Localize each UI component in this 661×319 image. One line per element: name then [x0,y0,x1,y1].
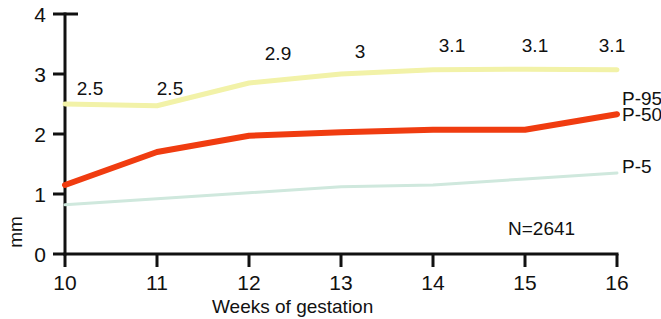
series-group [65,69,617,205]
chart-canvas: 4 3 2 1 0 10 11 12 13 14 15 16 Weeks of … [0,0,661,319]
data-label-week-10: 2.5 [77,78,103,99]
series-line-p5 [65,173,617,205]
data-label-week-12: 2.9 [265,43,291,64]
y-axis-title: mm [5,216,26,248]
y-tick-label-1: 1 [34,183,46,206]
x-tick-group: 10 11 12 13 14 15 16 [53,254,628,294]
data-label-week-15: 3.1 [522,35,548,56]
data-label-week-16: 3.1 [599,35,625,56]
y-tick-label-4: 4 [34,3,46,26]
series-label-p5: P-5 [622,156,652,177]
sample-size-annotation: N=2641 [508,218,575,239]
series-label-p50: P-50 [622,104,661,125]
x-tick-label-11: 11 [146,271,168,294]
x-tick-label-15: 15 [513,271,536,294]
x-tick-label-13: 13 [329,271,352,294]
series-line-p95 [65,69,617,106]
y-tick-label-3: 3 [34,63,46,86]
y-tick-label-0: 0 [34,243,46,266]
x-tick-label-12: 12 [237,271,260,294]
x-tick-label-16: 16 [605,271,628,294]
data-label-week-14: 3.1 [439,35,465,56]
series-line-p50 [65,114,617,185]
x-tick-label-14: 14 [421,271,445,294]
data-label-week-13: 3 [355,41,366,62]
data-label-week-11: 2.5 [157,78,183,99]
x-axis-title: Weeks of gestation [212,296,373,317]
y-tick-label-2: 2 [34,123,46,146]
x-tick-label-10: 10 [53,271,76,294]
y-tick-group: 4 3 2 1 0 [34,3,65,266]
percentile-growth-chart: 4 3 2 1 0 10 11 12 13 14 15 16 Weeks of … [0,0,661,319]
inline-legend-group: P-95 P-50 P-5 [622,88,661,177]
